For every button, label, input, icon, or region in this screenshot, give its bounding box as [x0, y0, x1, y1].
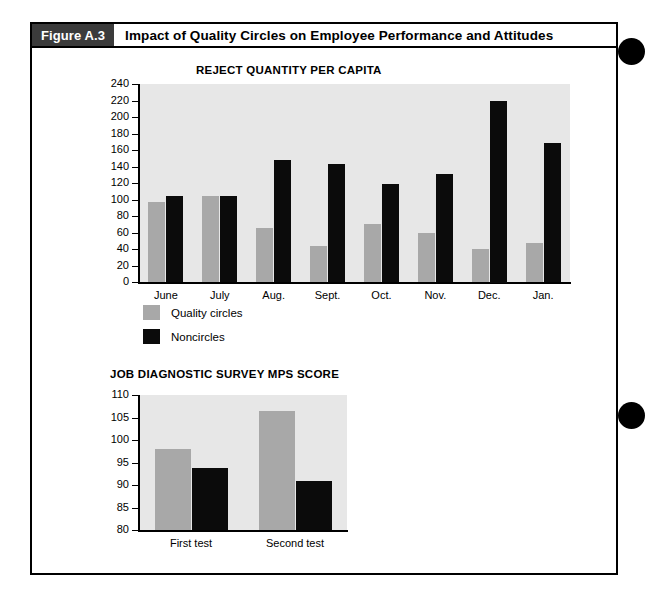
- mps-score-chart-y-tick-label: 100: [89, 433, 129, 445]
- reject-quantity-chart-bar: [364, 224, 381, 282]
- reject-quantity-chart-bar: [220, 196, 237, 282]
- reject-quantity-chart-y-tick-label: 0: [89, 275, 129, 287]
- reject-quantity-chart-bar: [382, 184, 399, 282]
- reject-quantity-chart-bar: [328, 164, 345, 282]
- reject-quantity-chart-bar: [310, 246, 327, 282]
- reject-quantity-chart-y-tick-label: 40: [89, 242, 129, 254]
- reject-quantity-chart-y-tick-label: 200: [89, 110, 129, 122]
- reject-quantity-chart-bar: [166, 196, 183, 282]
- reject-quantity-chart-y-tick-label: 160: [89, 143, 129, 155]
- reject-quantity-chart-bar: [202, 196, 219, 282]
- reject-quantity-chart-y-tick: [132, 101, 138, 102]
- reject-quantity-chart-y-tick-label: 60: [89, 226, 129, 238]
- reject-quantity-chart-y-tick: [132, 282, 138, 283]
- figure-number-tag: Figure A.3: [32, 24, 114, 46]
- reject-quantity-chart-y-tick-label: 240: [89, 77, 129, 89]
- legend-label-quality-circles: Quality circles: [171, 307, 243, 319]
- legend-swatch-quality-circles: [143, 305, 160, 320]
- reject-quantity-chart-bar: [472, 249, 489, 282]
- binding-dot-bottom-icon: [618, 402, 645, 429]
- mps-score-chart-bar: [259, 411, 295, 530]
- reject-quantity-chart-bar: [436, 174, 453, 282]
- reject-quantity-chart-y-tick-label: 120: [89, 176, 129, 188]
- figure-title: Impact of Quality Circles on Employee Pe…: [114, 24, 564, 46]
- reject-quantity-chart-y-tick: [132, 84, 138, 85]
- reject-quantity-chart-x-tick-label: Jan.: [498, 289, 588, 301]
- mps-score-chart-y-tick: [132, 530, 138, 531]
- mps-score-chart-y-tick-label: 80: [89, 523, 129, 535]
- chart-title-reject-quantity: REJECT QUANTITY PER CAPITA: [196, 64, 382, 76]
- reject-quantity-chart-y-tick: [132, 216, 138, 217]
- reject-quantity-chart-y-tick: [132, 117, 138, 118]
- mps-score-chart-x-tick-label: Second test: [250, 537, 340, 549]
- reject-quantity-chart-bar: [526, 243, 543, 282]
- reject-quantity-chart-y-tick-label: 220: [89, 94, 129, 106]
- mps-score-chart-x-tick-label: First test: [146, 537, 236, 549]
- mps-score-chart-y-tick: [132, 395, 138, 396]
- mps-score-chart-y-tick: [132, 508, 138, 509]
- reject-quantity-chart-bar: [490, 101, 507, 283]
- reject-quantity-chart-bar: [274, 160, 291, 282]
- mps-score-chart-y-tick-label: 90: [89, 478, 129, 490]
- reject-quantity-chart-y-tick-label: 180: [89, 127, 129, 139]
- reject-quantity-chart-y-tick: [132, 167, 138, 168]
- mps-score-chart-y-tick: [132, 485, 138, 486]
- mps-score-chart-y-tick: [132, 463, 138, 464]
- reject-quantity-chart-y-tick-label: 80: [89, 209, 129, 221]
- reject-quantity-chart-bar: [544, 143, 561, 282]
- reject-quantity-chart-y-tick: [132, 150, 138, 151]
- mps-score-chart-y-tick-label: 95: [89, 456, 129, 468]
- mps-score-chart-bar: [296, 481, 332, 530]
- reject-quantity-chart-y-tick-label: 140: [89, 160, 129, 172]
- figure-header: Figure A.3 Impact of Quality Circles on …: [30, 22, 618, 48]
- legend-label-noncircles: Noncircles: [171, 331, 225, 343]
- mps-score-chart-y-axis: [138, 395, 140, 531]
- mps-score-chart-y-tick: [132, 440, 138, 441]
- reject-quantity-chart-y-tick: [132, 200, 138, 201]
- reject-quantity-chart-y-tick-label: 100: [89, 193, 129, 205]
- legend-item-noncircles: Noncircles: [143, 329, 243, 344]
- legend-item-quality-circles: Quality circles: [143, 305, 243, 320]
- reject-quantity-chart-bar: [418, 233, 435, 282]
- mps-score-chart-x-axis: [138, 530, 348, 532]
- reject-quantity-chart-y-tick: [132, 233, 138, 234]
- mps-score-chart-bar: [192, 468, 228, 530]
- reject-quantity-chart-y-tick: [132, 183, 138, 184]
- legend-swatch-noncircles: [143, 329, 160, 344]
- mps-score-chart-y-tick: [132, 418, 138, 419]
- reject-quantity-chart-bar: [148, 202, 165, 282]
- reject-quantity-chart-bar: [256, 228, 273, 282]
- mps-score-chart-bar: [155, 449, 191, 530]
- chart-legend: Quality circles Noncircles: [143, 305, 243, 353]
- reject-quantity-chart-y-tick: [132, 134, 138, 135]
- reject-quantity-chart-y-axis: [138, 84, 140, 283]
- chart-title-mps-score: JOB DIAGNOSTIC SURVEY MPS SCORE: [110, 368, 339, 380]
- binding-dot-top-icon: [618, 38, 645, 65]
- reject-quantity-chart-y-tick-label: 20: [89, 259, 129, 271]
- mps-score-chart-y-tick-label: 85: [89, 501, 129, 513]
- reject-quantity-chart-y-tick: [132, 266, 138, 267]
- mps-score-chart-y-tick-label: 105: [89, 411, 129, 423]
- mps-score-chart-y-tick-label: 110: [89, 388, 129, 400]
- reject-quantity-chart-y-tick: [132, 249, 138, 250]
